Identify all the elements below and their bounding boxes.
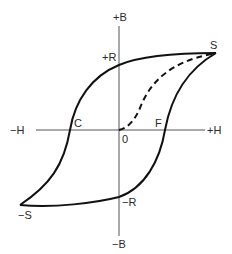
descending-branch [20, 53, 216, 205]
origin-label: 0 [122, 133, 128, 145]
ascending-branch [20, 53, 216, 206]
coercive-pos-label: F [155, 117, 162, 129]
minus-h-label: −H [10, 124, 24, 136]
plus-h-label: +H [207, 124, 221, 136]
coercive-neg-label: C [74, 117, 82, 129]
saturation-pos-label: S [210, 39, 217, 51]
plus-b-label: +B [113, 11, 127, 23]
remanence-pos-label: +R [102, 51, 116, 63]
hysteresis-diagram: +B −B −H +H 0 S −S +R −R C F [0, 0, 232, 254]
minus-b-label: −B [112, 238, 126, 250]
saturation-neg-label: −S [18, 209, 32, 221]
remanence-neg-label: −R [122, 196, 136, 208]
